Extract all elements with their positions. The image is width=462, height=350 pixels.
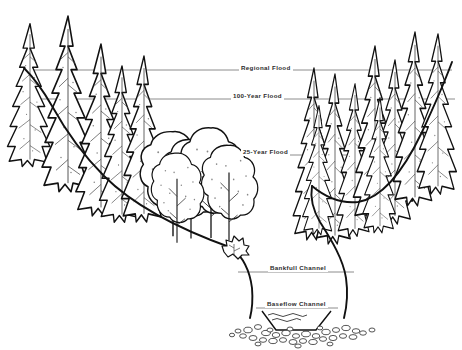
baseflow-channel-label: Baseflow Channel [265,300,328,308]
diagram-canvas: Regional Flood 100-Year Flood 25-Year Fl… [0,0,462,350]
floodplain-deciduous-trees [140,128,258,243]
bankfull-channel-label: Bankfull Channel [268,264,328,272]
left-hillslope-conifers [7,16,163,222]
valley-cross-section-drawing [0,0,462,350]
left-channel-bank [232,248,252,318]
regional-flood-label: Regional Flood [239,64,293,72]
right-hillslope-conifers [293,32,456,244]
25-year-flood-label: 25-Year Flood [241,148,290,156]
100-year-flood-label: 100-Year Flood [231,92,284,100]
bank-shrub [222,236,249,259]
